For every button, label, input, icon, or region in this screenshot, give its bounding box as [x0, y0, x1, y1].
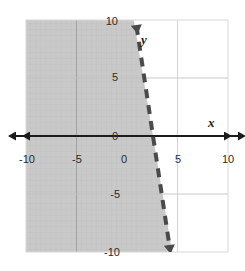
- y-tick-label-neg5: -5: [110, 188, 120, 200]
- y-tick-label-pos5: 5: [112, 71, 118, 83]
- y-tick-label-pos10: 10: [106, 15, 118, 27]
- y-tick-label-zero: 0: [112, 130, 118, 142]
- x-tick-label-pos5: 5: [175, 153, 181, 165]
- x-tick-label-neg10: -10: [19, 153, 35, 165]
- y-axis-name: y: [139, 32, 147, 47]
- y-tick-label-neg10: -10: [104, 246, 120, 258]
- x-tick-label-pos10: 10: [222, 153, 234, 165]
- x-tick-label-zero: 0: [121, 153, 127, 165]
- x-tick-label-neg5: -5: [72, 153, 82, 165]
- x-axis-name: x: [207, 115, 215, 130]
- graph-container: -10 -5 0 5 10 10 5 0 -5 -10 y x: [0, 0, 245, 271]
- coordinate-plane: -10 -5 0 5 10 10 5 0 -5 -10 y x: [0, 0, 245, 271]
